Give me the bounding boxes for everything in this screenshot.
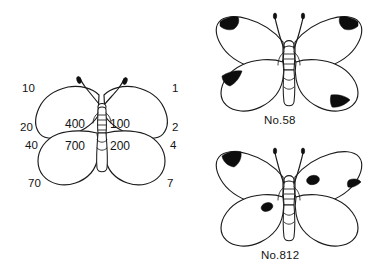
schematic-label-200: 200 xyxy=(110,139,130,153)
specimen-58-illustration: No.58 xyxy=(216,13,362,126)
schematic-label-20: 20 xyxy=(20,121,33,133)
schematic-label-2: 2 xyxy=(172,121,179,133)
specimen812-right-hindwing xyxy=(295,195,358,246)
schematic-label-400: 400 xyxy=(65,117,85,131)
schematic-label-7: 7 xyxy=(167,177,174,189)
schematic-right-antenna-club xyxy=(122,77,128,85)
specimen812-right-forewing-outer-spot xyxy=(347,179,361,187)
schematic-label-40: 40 xyxy=(25,139,38,151)
schematic-label-100: 100 xyxy=(110,117,130,131)
schematic-label-1: 1 xyxy=(172,82,179,94)
specimen58-right-antenna-club xyxy=(301,13,304,19)
specimen812-thorax xyxy=(283,181,295,205)
schematic-label-70: 70 xyxy=(28,177,41,189)
specimen58-thorax xyxy=(283,46,295,70)
butterfly-scoring-figure: 10 20 40 70 1 2 4 7 400 100 700 200 xyxy=(0,0,380,268)
schematic-label-700: 700 xyxy=(65,139,85,153)
specimen-58-caption: No.58 xyxy=(264,114,296,126)
specimen812-right-antenna-club xyxy=(301,148,304,154)
schematic-abdomen xyxy=(97,133,108,172)
schematic-left-antenna-club xyxy=(76,76,82,84)
specimen812-left-hindwing xyxy=(221,195,284,246)
specimen812-left-antenna-club xyxy=(273,148,276,154)
schematic-butterfly: 10 20 40 70 1 2 4 7 400 100 700 200 xyxy=(20,76,179,189)
schematic-label-10: 10 xyxy=(22,82,35,94)
specimen-812-caption: No.812 xyxy=(261,249,299,261)
schematic-label-4: 4 xyxy=(170,139,177,151)
specimen58-left-antenna-club xyxy=(273,13,276,19)
specimen-812-illustration: No.812 xyxy=(216,148,362,261)
specimen58-right-hindwing xyxy=(295,60,358,111)
